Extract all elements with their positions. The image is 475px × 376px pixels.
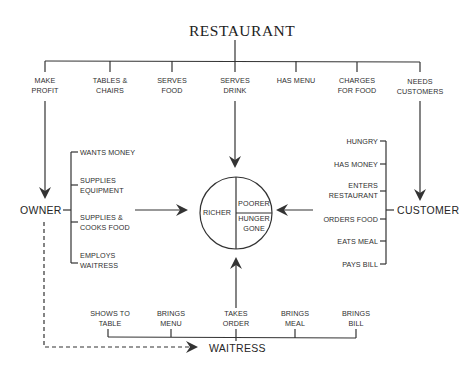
restaurant-bracket [45,61,420,62]
waitress-attr-brings-bill: BRINGS BILL [330,309,382,328]
owner-attr-supplies-cooks-food: SUPPLIES & COOKS FOOD [80,213,130,232]
waitress-attr-takes-order: TAKES ORDER [210,309,262,328]
owner-attr-supplies-equipment: SUPPLIES EQUIPMENT [80,176,124,195]
owner-attr-wants-money: WANTS MONEY [80,148,135,158]
customer-attr-has-money: HAS MONEY [334,160,378,170]
attr-tables-chairs: TABLES & CHAIRS [82,76,138,95]
customer-attr-enters-restaurant: ENTERS RESTAURANT [329,181,378,200]
attr-has-menu: HAS MENU [266,76,326,86]
attr-serves-food: SERVES FOOD [146,76,198,95]
outcome-richer: RICHER [198,208,236,218]
attr-serves-drink: SERVES DRINK [209,76,261,95]
attr-charges-for-food: CHARGES FOR FOOD [327,76,387,95]
diagram-title: RESTAURANT [189,22,295,40]
customer-attr-hungry: HUNGRY [346,137,378,147]
outcome-poorer: POORER [236,199,272,209]
customer-attr-orders-food: ORDERS FOOD [323,215,378,225]
waitress-node: WAITRESS [209,342,266,354]
customer-attr-pays-bill: PAYS BILL [342,260,378,270]
waitress-bracket [108,337,356,338]
waitress-attr-brings-meal: BRINGS MEAL [269,309,321,328]
owner-node: OWNER [20,204,62,216]
customer-node: CUSTOMER [397,204,459,216]
attr-needs-customers: NEEDS CUSTOMERS [385,77,455,96]
attr-make-profit: MAKE PROFIT [20,76,70,95]
waitress-attr-brings-menu: BRINGS MENU [145,309,197,328]
customer-attr-eats-meal: EATS MEAL [337,237,378,247]
owner-attr-employs-waitress: EMPLOYS WAITRESS [80,251,118,270]
owner-to-waitress-dashed-arrow [44,222,196,347]
outcome-hunger-gone: HUNGER GONE [236,214,272,233]
waitress-attr-shows-to-table: SHOWS TO TABLE [80,309,140,328]
